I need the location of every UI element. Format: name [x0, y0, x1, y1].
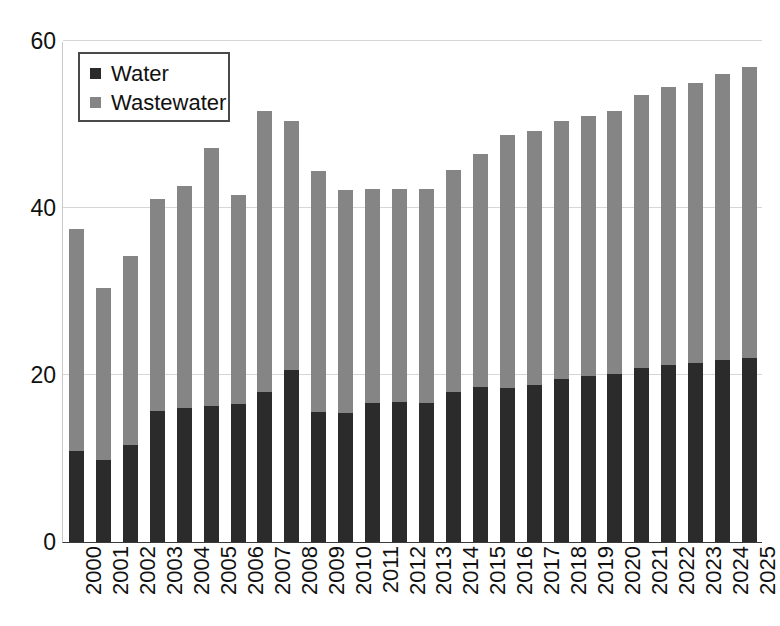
bar-group[interactable] — [527, 41, 542, 542]
bar-group[interactable] — [284, 41, 299, 542]
bar-segment-water[interactable] — [500, 388, 515, 542]
bar-segment-water[interactable] — [96, 460, 111, 542]
bar-group[interactable] — [742, 41, 757, 542]
bar-group[interactable] — [661, 41, 676, 542]
x-tick-label: 2005 — [219, 546, 239, 624]
bar-segment-water[interactable] — [123, 445, 138, 542]
gridline-60 — [63, 40, 762, 41]
bar-group[interactable] — [311, 41, 326, 542]
x-tick-label: 2007 — [273, 546, 293, 624]
bar-segment-water[interactable] — [661, 365, 676, 542]
bar-group[interactable] — [365, 41, 380, 542]
bar-segment-water[interactable] — [257, 392, 272, 542]
bar-segment-wastewater[interactable] — [123, 256, 138, 445]
bar-segment-wastewater[interactable] — [607, 111, 622, 374]
bar-segment-wastewater[interactable] — [231, 195, 246, 404]
bar-group[interactable] — [607, 41, 622, 542]
bar-group[interactable] — [446, 41, 461, 542]
y-tick-label: 60 — [4, 30, 56, 53]
bar-segment-water[interactable] — [150, 411, 165, 542]
bar-segment-wastewater[interactable] — [554, 121, 569, 379]
bar-segment-water[interactable] — [69, 451, 84, 542]
bar-segment-water[interactable] — [715, 360, 730, 542]
bar-segment-water[interactable] — [527, 385, 542, 542]
x-tick-label: 2025 — [758, 546, 778, 624]
x-tick-label: 2019 — [596, 546, 616, 624]
x-tick-label: 2001 — [111, 546, 131, 624]
legend-item-wastewater[interactable]: Wastewater — [90, 88, 228, 117]
x-tick-label: 2014 — [461, 546, 481, 624]
bar-segment-water[interactable] — [634, 368, 649, 542]
x-tick-label: 2017 — [542, 546, 562, 624]
bar-group[interactable] — [231, 41, 246, 542]
bar-segment-water[interactable] — [392, 402, 407, 542]
bar-segment-wastewater[interactable] — [742, 67, 757, 358]
bar-segment-wastewater[interactable] — [634, 95, 649, 368]
bar-group[interactable] — [338, 41, 353, 542]
bar-segment-wastewater[interactable] — [688, 83, 703, 364]
bar-segment-water[interactable] — [204, 406, 219, 542]
bar-segment-water[interactable] — [231, 404, 246, 542]
bar-segment-wastewater[interactable] — [581, 116, 596, 376]
bar-group[interactable] — [473, 41, 488, 542]
bar-segment-water[interactable] — [473, 387, 488, 542]
bar-segment-wastewater[interactable] — [661, 87, 676, 365]
bar-group[interactable] — [257, 41, 272, 542]
bar-group[interactable] — [419, 41, 434, 542]
bar-group[interactable] — [554, 41, 569, 542]
x-tick-label: 2023 — [704, 546, 724, 624]
chart-legend: Water Wastewater — [78, 52, 230, 122]
x-tick-label: 2021 — [650, 546, 670, 624]
bar-segment-water[interactable] — [365, 403, 380, 542]
bar-segment-water[interactable] — [311, 412, 326, 542]
bar-segment-water[interactable] — [742, 358, 757, 542]
bar-group[interactable] — [581, 41, 596, 542]
bar-segment-wastewater[interactable] — [365, 189, 380, 404]
x-tick-label: 2022 — [677, 546, 697, 624]
x-tick-label: 2011 — [381, 546, 401, 624]
bar-group[interactable] — [715, 41, 730, 542]
x-tick-label: 2009 — [327, 546, 347, 624]
legend-label-water: Water — [111, 63, 169, 85]
bar-segment-water[interactable] — [284, 370, 299, 542]
gridline-40 — [63, 207, 762, 208]
bar-segment-water[interactable] — [338, 413, 353, 542]
bar-segment-wastewater[interactable] — [419, 189, 434, 403]
bar-group[interactable] — [392, 41, 407, 542]
bar-segment-wastewater[interactable] — [338, 190, 353, 413]
legend-item-water[interactable]: Water — [90, 59, 228, 88]
bar-segment-wastewater[interactable] — [150, 199, 165, 411]
water-swatch-icon — [90, 68, 101, 79]
bar-segment-wastewater[interactable] — [473, 154, 488, 387]
bar-segment-water[interactable] — [607, 374, 622, 542]
x-tick-label: 2002 — [138, 546, 158, 624]
bar-segment-water[interactable] — [688, 363, 703, 542]
bar-group[interactable] — [634, 41, 649, 542]
bar-segment-water[interactable] — [419, 403, 434, 542]
bar-segment-water[interactable] — [554, 379, 569, 542]
bar-segment-wastewater[interactable] — [177, 186, 192, 408]
bar-group[interactable] — [500, 41, 515, 542]
bar-segment-wastewater[interactable] — [96, 288, 111, 460]
bar-segment-wastewater[interactable] — [446, 170, 461, 391]
bar-segment-water[interactable] — [177, 408, 192, 542]
bar-segment-wastewater[interactable] — [204, 148, 219, 406]
bar-segment-wastewater[interactable] — [257, 111, 272, 392]
bar-segment-water[interactable] — [446, 392, 461, 542]
y-tick-label: 0 — [4, 531, 56, 554]
x-tick-label: 2010 — [354, 546, 374, 624]
bar-segment-water[interactable] — [581, 376, 596, 542]
x-tick-label: 2020 — [623, 546, 643, 624]
bar-group[interactable] — [688, 41, 703, 542]
bar-segment-wastewater[interactable] — [311, 171, 326, 411]
x-axis: 2000200120022003200420052006200720082009… — [62, 548, 762, 626]
x-tick-label: 2024 — [731, 546, 751, 624]
bar-segment-wastewater[interactable] — [500, 135, 515, 388]
bar-segment-wastewater[interactable] — [284, 121, 299, 370]
x-tick-label: 2012 — [408, 546, 428, 624]
x-tick-label: 2003 — [165, 546, 185, 624]
bar-segment-wastewater[interactable] — [715, 74, 730, 360]
bar-segment-wastewater[interactable] — [527, 131, 542, 385]
bar-segment-wastewater[interactable] — [69, 229, 84, 451]
bar-segment-wastewater[interactable] — [392, 189, 407, 402]
